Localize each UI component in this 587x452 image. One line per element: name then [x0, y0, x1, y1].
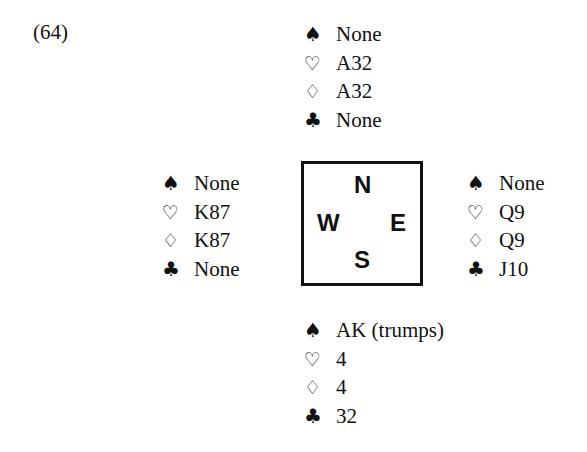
compass-box: N W E S	[301, 161, 423, 286]
east-diamonds: Q9	[499, 226, 525, 255]
diamond-icon: ♢	[467, 226, 499, 255]
south-spades: AK (trumps)	[336, 316, 444, 345]
west-diamonds-row: ♢ K87	[162, 226, 240, 255]
west-hand: ♠ None ♡ K87 ♢ K87 ♣ None	[162, 169, 240, 283]
east-clubs: J10	[499, 255, 528, 284]
south-clubs-row: ♣ 32	[304, 402, 444, 431]
south-hearts: 4	[336, 345, 347, 374]
east-hearts: Q9	[499, 198, 525, 227]
south-diamonds: 4	[336, 373, 347, 402]
problem-number: (64)	[33, 20, 68, 45]
club-icon: ♣	[304, 106, 336, 135]
north-spades-row: ♠ None	[304, 20, 382, 49]
heart-icon: ♡	[467, 198, 499, 227]
east-clubs-row: ♣ J10	[467, 255, 545, 284]
north-spades: None	[336, 20, 382, 49]
heart-icon: ♡	[162, 198, 194, 227]
north-diamonds: A32	[336, 77, 372, 106]
heart-icon: ♡	[304, 49, 336, 78]
spade-icon: ♠	[304, 316, 336, 345]
heart-icon: ♡	[304, 345, 336, 374]
north-clubs-row: ♣ None	[304, 106, 382, 135]
diamond-icon: ♢	[304, 77, 336, 106]
east-hand: ♠ None ♡ Q9 ♢ Q9 ♣ J10	[467, 169, 545, 283]
compass-east-label: E	[390, 209, 406, 237]
south-hearts-row: ♡ 4	[304, 345, 444, 374]
north-hearts-row: ♡ A32	[304, 49, 382, 78]
spade-icon: ♠	[467, 169, 499, 198]
spade-icon: ♠	[304, 20, 336, 49]
west-spades-row: ♠ None	[162, 169, 240, 198]
south-clubs: 32	[336, 402, 357, 431]
west-hearts-row: ♡ K87	[162, 198, 240, 227]
south-hand: ♠ AK (trumps) ♡ 4 ♢ 4 ♣ 32	[304, 316, 444, 430]
club-icon: ♣	[162, 255, 194, 284]
east-spades: None	[499, 169, 545, 198]
west-spades: None	[194, 169, 240, 198]
west-hearts: K87	[194, 198, 230, 227]
spade-icon: ♠	[162, 169, 194, 198]
compass-west-label: W	[317, 209, 340, 237]
south-spades-row: ♠ AK (trumps)	[304, 316, 444, 345]
compass-north-label: N	[354, 171, 371, 199]
south-diamonds-row: ♢ 4	[304, 373, 444, 402]
west-clubs: None	[194, 255, 240, 284]
east-diamonds-row: ♢ Q9	[467, 226, 545, 255]
diamond-icon: ♢	[162, 226, 194, 255]
club-icon: ♣	[467, 255, 499, 284]
north-hand: ♠ None ♡ A32 ♢ A32 ♣ None	[304, 20, 382, 134]
club-icon: ♣	[304, 402, 336, 431]
west-clubs-row: ♣ None	[162, 255, 240, 284]
compass-south-label: S	[354, 246, 370, 274]
west-diamonds: K87	[194, 226, 230, 255]
east-spades-row: ♠ None	[467, 169, 545, 198]
north-diamonds-row: ♢ A32	[304, 77, 382, 106]
east-hearts-row: ♡ Q9	[467, 198, 545, 227]
diamond-icon: ♢	[304, 373, 336, 402]
north-hearts: A32	[336, 49, 372, 78]
north-clubs: None	[336, 106, 382, 135]
